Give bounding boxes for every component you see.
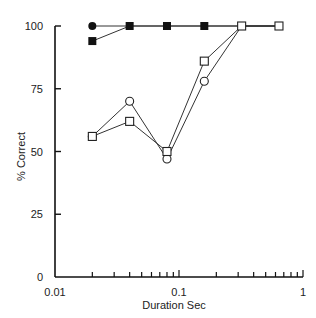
marker-open-square — [275, 22, 283, 30]
marker-filled-square — [200, 22, 208, 30]
series-line-filled-square — [92, 26, 279, 41]
y-tick-label: 0 — [37, 271, 43, 283]
marker-open-circle — [200, 77, 208, 85]
series-line-open-circle — [92, 26, 279, 159]
y-tick-label: 25 — [31, 208, 43, 220]
series-line-open-square — [92, 26, 279, 152]
y-tick-label: 75 — [31, 83, 43, 95]
labels-layer: 02550751000.010.11Duration Sec% Correct — [15, 20, 306, 311]
marker-open-square — [200, 57, 208, 65]
y-tick-label: 50 — [31, 146, 43, 158]
marker-filled-circle — [88, 22, 96, 30]
marker-open-square — [238, 22, 246, 30]
x-tick-label: 1 — [300, 286, 306, 298]
marker-open-circle — [163, 155, 171, 163]
marker-open-square — [126, 117, 134, 125]
marker-open-circle — [126, 97, 134, 105]
x-tick-label: 0.01 — [44, 286, 65, 298]
marker-open-square — [88, 132, 96, 140]
y-axis-title: % Correct — [15, 132, 27, 181]
series-layer — [88, 22, 283, 163]
marker-open-square — [163, 148, 171, 156]
marker-filled-square — [126, 22, 134, 30]
y-tick-label: 100 — [25, 20, 43, 32]
x-axis-title: Duration Sec — [142, 299, 206, 311]
axes — [55, 26, 303, 277]
line-chart: 02550751000.010.11Duration Sec% Correct — [0, 0, 316, 318]
marker-filled-square — [163, 22, 171, 30]
marker-filled-square — [88, 37, 96, 45]
x-tick-label: 0.1 — [171, 286, 186, 298]
